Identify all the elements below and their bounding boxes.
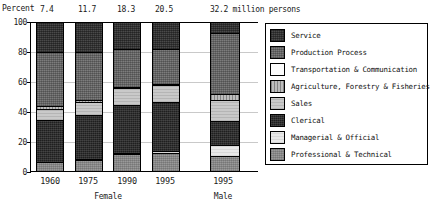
- ytick-mark-40: [27, 112, 31, 113]
- group-label-male: Male: [193, 192, 253, 201]
- legend-label-clerical: Clerical: [291, 116, 325, 125]
- legend-item-service[interactable]: Service: [270, 28, 320, 43]
- bar-segment-managerial-official: [75, 159, 103, 161]
- legend-swatch-agri-icon: [270, 80, 285, 93]
- ytick-label-40: 40: [3, 108, 27, 117]
- ytick-label-0: 0: [3, 168, 27, 177]
- bar-segment-production-process: [210, 33, 240, 95]
- total-label-1995-female: 20.5: [155, 5, 173, 14]
- ytick-mark-60: [27, 82, 31, 83]
- bar-segment-production-process: [75, 52, 103, 100]
- total-label-1990: 18.3: [117, 5, 135, 14]
- legend-label-professional: Professional & Technical: [291, 150, 392, 159]
- bar-segment-production-process: [152, 49, 180, 84]
- xtick-label-1990: 1990: [107, 176, 147, 186]
- bar-female-1995: [152, 22, 180, 172]
- bar-segment-professional-technical: [152, 153, 180, 173]
- total-label-1995-male: 32.2 million persons: [210, 5, 300, 14]
- bar-segment-clerical: [113, 105, 141, 153]
- bar-female-1990: [113, 22, 141, 172]
- bar-segment-managerial-official: [152, 151, 180, 153]
- xtick-label-1995-male: 1995: [203, 176, 243, 186]
- legend-label-service: Service: [291, 31, 320, 40]
- bar-segment-production-process: [36, 52, 64, 106]
- bar-segment-agriculture-forestry-fisheries: [113, 87, 141, 89]
- ytick-mark-20: [27, 142, 31, 143]
- legend-swatch-clerical-icon: [270, 114, 285, 127]
- legend-label-transport: Transportation & Communication: [291, 65, 417, 74]
- legend-item-managerial[interactable]: Managerial & Official: [270, 130, 379, 145]
- legend-swatch-transport-icon: [270, 63, 285, 76]
- bar-segment-clerical: [152, 102, 180, 152]
- legend-item-clerical[interactable]: Clerical: [270, 113, 325, 128]
- legend-item-agri[interactable]: Agriculture, Forestry & Fisheries: [270, 79, 430, 94]
- xtick-label-1995-female: 1995: [145, 176, 185, 186]
- bar-segment-agriculture-forestry-fisheries: [152, 84, 180, 86]
- legend-swatch-professional-icon: [270, 148, 285, 161]
- bar-segment-production-process: [113, 49, 141, 87]
- bar-female-1960: [36, 22, 64, 172]
- legend-item-transport[interactable]: Transportation & Communication: [270, 62, 417, 77]
- ytick-label-80: 80: [3, 48, 27, 57]
- total-label-1960: 7.4: [40, 5, 54, 14]
- bar-segment-agriculture-forestry-fisheries: [36, 106, 64, 109]
- ytick-mark-0: [27, 172, 31, 173]
- bar-segment-agriculture-forestry-fisheries: [210, 94, 240, 100]
- xtick-label-1975: 1975: [68, 176, 108, 186]
- legend-item-professional[interactable]: Professional & Technical: [270, 147, 392, 162]
- bar-female-1975: [75, 22, 103, 172]
- group-label-female: Female: [78, 192, 138, 201]
- bar-segment-professional-technical: [75, 160, 103, 172]
- legend-label-production: Production Process: [291, 48, 367, 57]
- legend-swatch-production-icon: [270, 46, 285, 59]
- bar-segment-managerial-official: [113, 153, 141, 155]
- bar-segment-professional-technical: [36, 162, 64, 173]
- bar-segment-service: [210, 22, 240, 33]
- ytick-mark-80: [27, 52, 31, 53]
- ytick-mark-100: [27, 22, 31, 23]
- bar-segment-agriculture-forestry-fisheries: [75, 100, 103, 102]
- bar-segment-sales: [210, 100, 240, 121]
- legend-item-sales[interactable]: Sales: [270, 96, 312, 111]
- bar-segment-professional-technical: [113, 154, 141, 172]
- bar-segment-service: [36, 22, 64, 52]
- chart-root: Percent 7.4 11.7 18.3 20.5 32.2 million …: [0, 0, 431, 214]
- bar-segment-sales: [152, 85, 180, 102]
- legend-label-managerial: Managerial & Official: [291, 133, 379, 142]
- legend-label-sales: Sales: [291, 99, 312, 108]
- bar-segment-sales: [36, 109, 64, 120]
- bar-segment-sales: [113, 88, 141, 105]
- bar-segment-managerial-official: [210, 145, 240, 156]
- y-axis-title: Percent: [2, 4, 34, 13]
- bar-segment-sales: [75, 102, 103, 116]
- bar-male-1995: [210, 22, 240, 172]
- legend-swatch-managerial-icon: [270, 131, 285, 144]
- ytick-label-100: 100: [3, 18, 27, 27]
- xtick-label-1960: 1960: [30, 176, 70, 186]
- legend-item-production[interactable]: Production Process: [270, 45, 367, 60]
- legend: ServiceProduction ProcessTransportation …: [265, 23, 428, 165]
- total-label-1975: 11.7: [78, 5, 96, 14]
- bar-segment-service: [152, 22, 180, 49]
- ytick-label-60: 60: [3, 78, 27, 87]
- legend-swatch-service-icon: [270, 29, 285, 42]
- bar-segment-clerical: [75, 115, 103, 159]
- bar-segment-service: [75, 22, 103, 52]
- bar-segment-clerical: [210, 121, 240, 145]
- bar-segment-clerical: [36, 120, 64, 162]
- bar-segment-service: [113, 22, 141, 49]
- ytick-label-20: 20: [3, 138, 27, 147]
- legend-label-agri: Agriculture, Forestry & Fisheries: [291, 82, 430, 91]
- bar-segment-professional-technical: [210, 156, 240, 173]
- legend-swatch-sales-icon: [270, 97, 285, 110]
